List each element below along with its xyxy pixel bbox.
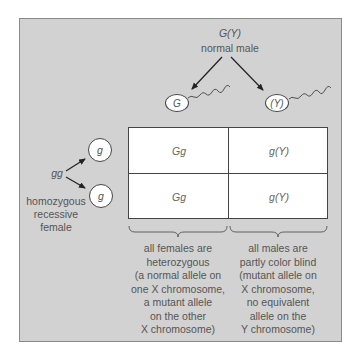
females-note-line: (a normal allele on: [123, 269, 233, 283]
males-note-line: Y chromosome): [223, 323, 333, 337]
males-note-line: X chromosome,: [223, 283, 333, 297]
sperm-G-allele: G: [173, 98, 181, 109]
brace-males: [230, 226, 327, 237]
females-note-line: one X chromosome,: [123, 283, 233, 297]
male-genotype: G(Y): [200, 27, 260, 40]
female-label-line3: female: [20, 221, 92, 234]
female-label-line2: recessive: [20, 208, 92, 221]
males-note-line: no equivalent: [223, 296, 333, 310]
brace-females: [129, 226, 227, 237]
male-label: normal male: [190, 42, 270, 55]
sperm-Y: (Y): [265, 94, 289, 112]
punnett-cell-r2c2: g(Y): [229, 174, 329, 220]
punnett-cell-r1c1: Gg: [129, 128, 229, 174]
arrow-to-G-sperm: [192, 57, 222, 89]
females-note-line: a mutant allele: [123, 296, 233, 310]
egg-g-bottom: g: [89, 184, 113, 208]
males-note-line: (mutant allele on: [223, 269, 333, 283]
egg-g-bottom-allele: g: [98, 190, 104, 202]
punnett-cell-r1c2: g(Y): [229, 128, 329, 174]
sperm-G: G: [165, 94, 189, 112]
punnett-square: Gg g(Y) Gg g(Y): [128, 127, 328, 219]
males-note: all males are partly color blind (mutant…: [223, 242, 333, 337]
females-note-line: X chromosome): [123, 323, 233, 337]
punnett-cell-r2c1: Gg: [129, 174, 229, 220]
egg-g-top: g: [88, 138, 112, 162]
female-genotype: gg: [45, 167, 69, 180]
males-note-line: allele on the: [223, 310, 333, 324]
arrow-to-Y-sperm: [231, 57, 263, 90]
sperm-Y-allele: (Y): [270, 98, 283, 109]
female-label-line1: homozygous: [20, 195, 92, 208]
females-note-line: on the other: [123, 310, 233, 324]
punnett-horizontal-divider: [129, 173, 327, 174]
males-note-line: partly color blind: [223, 256, 333, 270]
egg-g-top-allele: g: [97, 144, 103, 156]
females-note-line: all females are: [123, 242, 233, 256]
females-note: all females are heterozygous (a normal a…: [123, 242, 233, 337]
females-note-line: heterozygous: [123, 256, 233, 270]
sperm-tail-Y: [289, 86, 331, 99]
males-note-line: all males are: [223, 242, 333, 256]
